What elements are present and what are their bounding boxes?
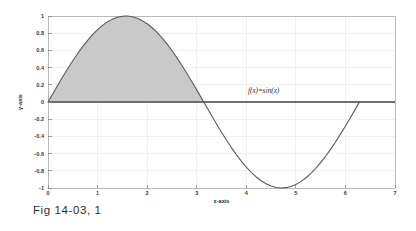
y-tick-label: 0.6 bbox=[36, 47, 44, 53]
figure-caption: Fig 14-03, 1 bbox=[33, 204, 102, 216]
x-tick-label: 0 bbox=[46, 190, 49, 196]
x-axis-ticks bbox=[48, 185, 395, 189]
y-tick-label: -0.8 bbox=[34, 168, 44, 174]
y-tick-label: -0.4 bbox=[34, 133, 45, 139]
y-tick-label: -0.6 bbox=[34, 151, 44, 157]
x-tick-label: 5 bbox=[294, 190, 297, 196]
y-tick-label: 0.2 bbox=[36, 82, 44, 88]
y-tick-label: 1 bbox=[41, 13, 44, 19]
y-axis-tick-labels: -1-0.8-0.6-0.4-0.200.20.40.60.81 bbox=[34, 13, 45, 191]
x-axis-tick-labels: 01234567 bbox=[46, 190, 396, 196]
y-axis-title: y-axis bbox=[17, 94, 23, 110]
figure-container: 01234567 -1-0.8-0.6-0.4-0.200.20.40.60.8… bbox=[0, 0, 416, 231]
x-tick-label: 6 bbox=[344, 190, 347, 196]
area-fill-under-curve bbox=[48, 16, 204, 102]
x-tick-label: 4 bbox=[245, 190, 249, 196]
y-tick-label: 0.4 bbox=[36, 65, 45, 71]
y-tick-label: 0 bbox=[41, 99, 44, 105]
sine-plot: 01234567 -1-0.8-0.6-0.4-0.200.20.40.60.8… bbox=[0, 0, 416, 231]
curve-equation-annotation: f(x)=sin(x) bbox=[248, 87, 280, 95]
x-tick-label: 3 bbox=[195, 190, 198, 196]
x-axis-title: x-axis bbox=[214, 198, 230, 204]
x-tick-label: 7 bbox=[393, 190, 396, 196]
x-tick-label: 1 bbox=[96, 190, 99, 196]
y-tick-label: -0.2 bbox=[34, 116, 44, 122]
y-tick-label: 0.8 bbox=[36, 30, 44, 36]
y-tick-label: -1 bbox=[39, 185, 44, 191]
x-tick-label: 2 bbox=[146, 190, 149, 196]
